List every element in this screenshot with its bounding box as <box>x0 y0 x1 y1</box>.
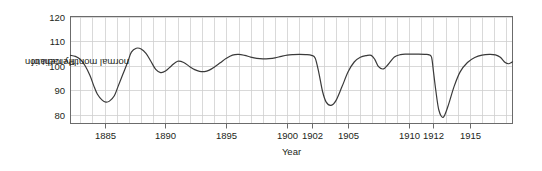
x-tick-label: 1905 <box>338 130 359 141</box>
x-tick-label: 1912 <box>423 130 444 141</box>
x-tick-label: 1900 <box>277 130 298 141</box>
x-tick-label: 1890 <box>155 130 176 141</box>
x-tick-label: 1885 <box>95 130 116 141</box>
radiation-line-chart: Percent of normal monthly radiation 8090… <box>0 0 542 171</box>
x-tick-label: 1902 <box>302 130 323 141</box>
x-tick-label: 1910 <box>399 130 420 141</box>
x-tick-label: 1915 <box>460 130 481 141</box>
x-tick-label: 1895 <box>216 130 237 141</box>
x-axis-label: Year <box>70 146 513 157</box>
